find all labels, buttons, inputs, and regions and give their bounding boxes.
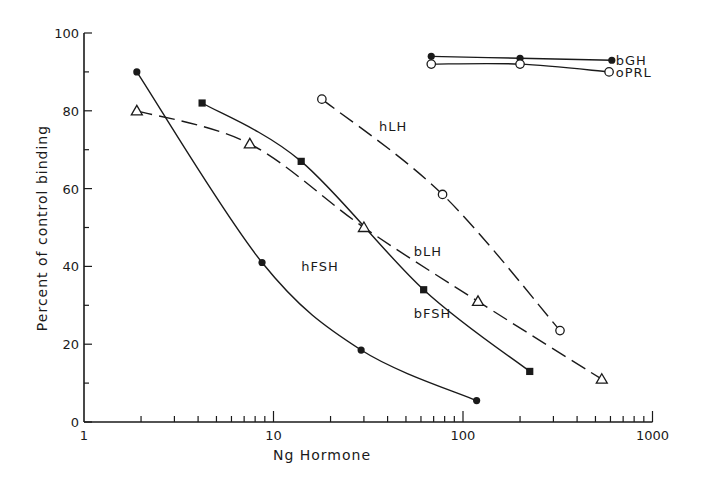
marker-bLH — [358, 222, 369, 232]
series-label-hLH: hLH — [379, 119, 407, 134]
marker-hFSH — [358, 346, 365, 353]
series-label-bFSH: bFSH — [414, 306, 452, 321]
marker-bLH — [244, 138, 255, 148]
series-line-hFSH — [137, 72, 477, 401]
marker-oPRL — [516, 60, 524, 68]
axes: 0204060801001101001000 — [54, 26, 669, 443]
marker-bFSH — [298, 158, 305, 165]
binding-inhibition-chart: 0204060801001101001000 hLHbLHhFSHbFSHbGH… — [0, 0, 703, 484]
marker-bFSH — [420, 286, 427, 293]
y-tick-label: 60 — [62, 182, 79, 197]
marker-hLH — [318, 95, 326, 103]
series-label-hFSH: hFSH — [301, 259, 339, 274]
marker-bFSH — [526, 368, 533, 375]
marker-bGH — [608, 57, 615, 64]
y-tick-label: 80 — [62, 104, 79, 119]
marker-bLH — [131, 105, 142, 115]
marker-bGH — [428, 53, 435, 60]
y-tick-label: 0 — [71, 415, 79, 430]
marker-oPRL — [605, 68, 613, 76]
x-tick-label: 100 — [451, 428, 476, 443]
y-tick-label: 40 — [62, 259, 79, 274]
marker-bLH — [596, 374, 607, 384]
marker-bFSH — [199, 99, 206, 106]
x-tick-label: 1000 — [636, 428, 669, 443]
marker-hFSH — [133, 68, 140, 75]
series-label-oPRL: oPRL — [616, 65, 652, 80]
marker-hLH — [556, 326, 564, 334]
x-tick-label: 10 — [265, 428, 282, 443]
series-line-bLH — [137, 111, 602, 379]
marker-oPRL — [427, 60, 435, 68]
marker-hFSH — [258, 259, 265, 266]
y-tick-label: 100 — [54, 26, 79, 41]
marker-hLH — [438, 190, 446, 198]
y-axis-label: Percent of control binding — [34, 125, 50, 331]
x-axis-label: Ng Hormone — [273, 447, 371, 463]
series-layer — [131, 53, 615, 404]
series-label-bLH: bLH — [414, 244, 442, 259]
series-labels: hLHbLHhFSHbFSHbGHoPRL — [301, 53, 652, 321]
marker-hFSH — [473, 397, 480, 404]
x-tick-label: 1 — [80, 428, 88, 443]
y-tick-label: 20 — [62, 337, 79, 352]
series-line-hLH — [322, 99, 560, 330]
marker-bLH — [473, 296, 484, 306]
